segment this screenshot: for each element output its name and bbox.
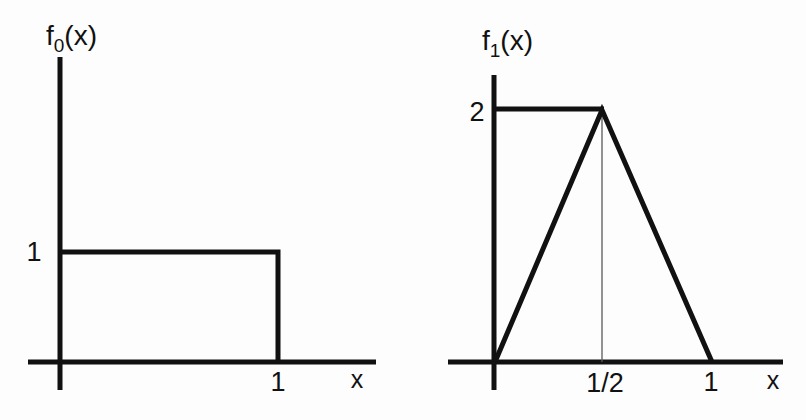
- left-x-axis-name: x: [351, 365, 364, 393]
- right-panel-group: f1(x) 2 1/2 1 x: [448, 25, 783, 398]
- right-function-label-suffix: (x): [500, 25, 533, 56]
- left-function-label-subscript: 0: [54, 35, 65, 56]
- left-x-tick-label-1: 1: [270, 367, 285, 397]
- left-function-label: f0(x): [46, 20, 97, 56]
- left-function-label-suffix: (x): [64, 20, 97, 51]
- right-x-tick-label-1: 1: [703, 367, 718, 397]
- right-x-axis-name: x: [767, 366, 780, 394]
- right-function-label: f1(x): [482, 25, 533, 61]
- right-y-tick-label-2: 2: [469, 97, 484, 127]
- right-triangular-density-curve: [495, 110, 712, 362]
- right-x-tick-label-half: 1/2: [586, 368, 624, 398]
- left-uniform-density-curve: [60, 252, 278, 362]
- left-panel-group: f0(x) 1 1 x: [26, 20, 376, 397]
- left-y-tick-label-1: 1: [26, 237, 41, 267]
- right-function-label-subscript: 1: [490, 40, 501, 61]
- figure-canvas: f0(x) 1 1 x f1(x) 2 1/2 1 x: [0, 0, 806, 420]
- figure-root: f0(x) 1 1 x f1(x) 2 1/2 1 x: [0, 0, 806, 420]
